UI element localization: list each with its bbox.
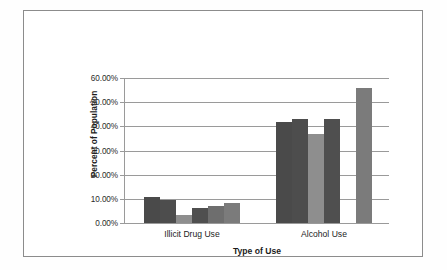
y-tick-label-1000: 10.00% (91, 194, 118, 203)
bar (324, 119, 340, 223)
gridline-3000 (124, 151, 389, 152)
bar (192, 208, 208, 223)
category-label-illicit-drug-use: Illicit Drug Use (164, 229, 219, 239)
y-tick-label-000: 0.00% (95, 219, 118, 228)
bar (176, 215, 192, 223)
bar (160, 200, 176, 223)
x-axis-title: Type of Use (233, 246, 281, 256)
plot-area: 0.00%10.00%20.00%30.00%40.00%50.00%60.00… (124, 78, 389, 223)
category-label-alcohol-use: Alcohol Use (301, 229, 347, 239)
bar (224, 203, 240, 223)
y-tick-label-5000: 50.00% (91, 98, 118, 107)
y-axis-tick (120, 151, 124, 152)
gridline-4000 (124, 126, 389, 127)
y-axis-tick (120, 102, 124, 103)
bar (144, 197, 160, 223)
y-tick-label-3000: 30.00% (91, 146, 118, 155)
y-axis-tick (120, 126, 124, 127)
scanned-page: Percent of Population 0.00%10.00%20.00%3… (0, 0, 447, 270)
y-axis-tick (120, 223, 124, 224)
bar (276, 122, 292, 223)
gridline-6000 (124, 78, 389, 79)
y-tick-label-4000: 40.00% (91, 122, 118, 131)
y-axis-tick (120, 175, 124, 176)
bar (292, 119, 308, 223)
bar (208, 206, 224, 223)
bar (356, 88, 372, 223)
y-tick-label-6000: 60.00% (91, 74, 118, 83)
y-tick-label-2000: 20.00% (91, 170, 118, 179)
y-axis-tick (120, 199, 124, 200)
chart-frame: Percent of Population 0.00%10.00%20.00%3… (23, 10, 423, 257)
gridline-2000 (124, 175, 389, 176)
y-axis-tick (120, 78, 124, 79)
bar (308, 134, 324, 223)
gridline-000 (124, 223, 389, 224)
gridline-5000 (124, 102, 389, 103)
